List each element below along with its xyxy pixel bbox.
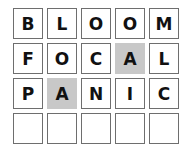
tile-r4-c3 (81, 113, 111, 144)
tile-r4-c2 (47, 113, 77, 144)
tile-r2-c4: A (115, 43, 145, 74)
tile-r2-c2: O (47, 43, 77, 74)
tile-r3-c4: I (115, 78, 145, 109)
tile-r2-c3: C (81, 43, 111, 74)
tile-r4-c1 (13, 113, 43, 144)
tile-r2-c5: L (149, 43, 179, 74)
tile-r4-c4 (115, 113, 145, 144)
tile-r3-c5: C (149, 78, 179, 109)
tile-r1-c4: O (115, 8, 145, 39)
tile-r1-c2: L (47, 8, 77, 39)
tile-r4-c5 (149, 113, 179, 144)
game-board: B L O O M F O C A L P A N I C (13, 8, 179, 144)
tile-r3-c2: A (47, 78, 77, 109)
tile-r3-c1: P (13, 78, 43, 109)
tile-r1-c5: M (149, 8, 179, 39)
tile-r3-c3: N (81, 78, 111, 109)
tile-r2-c1: F (13, 43, 43, 74)
tile-r1-c1: B (13, 8, 43, 39)
tile-r1-c3: O (81, 8, 111, 39)
